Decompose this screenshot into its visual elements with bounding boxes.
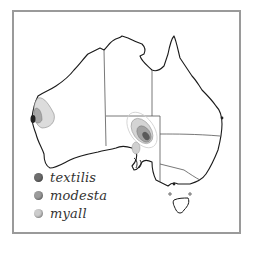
distribution-south-myall: [132, 142, 140, 154]
legend: textilis modesta myall: [34, 168, 107, 222]
legend-swatch-icon: [34, 191, 43, 200]
legend-label: modesta: [50, 188, 107, 203]
qld-nsw-border: [160, 134, 220, 136]
legend-item-modesta: modesta: [34, 186, 107, 204]
distribution-west-textilis: [31, 115, 36, 123]
legend-swatch-icon: [34, 173, 43, 182]
legend-item-textilis: textilis: [34, 168, 107, 186]
site-marker: [221, 117, 224, 120]
legend-item-myall: myall: [34, 204, 107, 222]
site-marker: [173, 183, 176, 186]
nsw-vic-border: [160, 164, 200, 180]
wa-border: [104, 50, 106, 146]
mainland-coastline: [32, 36, 222, 186]
legend-label: myall: [50, 206, 87, 221]
site-marker: [169, 193, 171, 195]
legend-label: textilis: [50, 170, 96, 185]
tasmania-outline: [173, 198, 189, 213]
site-marker: [189, 193, 191, 195]
legend-swatch-icon: [34, 209, 43, 218]
